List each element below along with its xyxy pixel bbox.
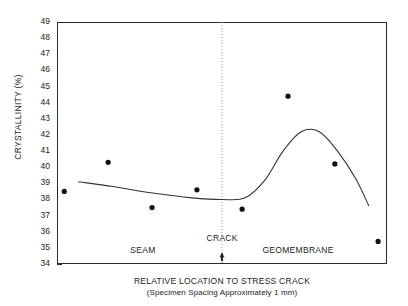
y-axis-tick-mark [57,264,62,265]
x-axis-title-main: RELATIVE LOCATION TO STRESS CRACK [134,276,310,286]
y-axis-tick-label: 37 [24,211,50,220]
y-axis-title: CRYSTALLINITY (%) [13,52,23,182]
seam-label: SEAM [130,245,155,255]
y-axis-tick-label: 45 [24,82,50,91]
y-axis-tick-label: 46 [24,65,50,74]
y-axis-tick-label-group: 49484746454443424140393837363534 [24,0,50,306]
y-axis-tick-label: 41 [24,146,50,155]
geomembrane-label: GEOMEMBRANE [262,245,333,255]
y-axis-tick-label: 48 [24,33,50,42]
x-axis-subtitle: (Specimen Spacing Approximately 1 mm) [57,287,387,299]
y-axis-tick-label: 38 [24,194,50,203]
y-axis-tick-label: 36 [24,227,50,236]
y-axis-tick-label: 44 [24,98,50,107]
y-axis-tick-label: 35 [24,243,50,252]
x-axis-title: RELATIVE LOCATION TO STRESS CRACK (Speci… [57,275,387,299]
y-axis-tick-label: 42 [24,130,50,139]
y-axis-tick-label: 39 [24,178,50,187]
y-axis-tick-label: 34 [24,259,50,268]
y-axis-tick-label: 40 [24,162,50,171]
y-axis-tick-label: 47 [24,49,50,58]
y-axis-tick-label: 49 [24,17,50,26]
y-axis-tick-label: 43 [24,114,50,123]
crystallinity-chart-figure: CRYSTALLINITY (%) 4948474645444342414039… [0,0,408,306]
crack-label: CRACK [207,233,238,243]
plot-area-frame [57,22,387,264]
